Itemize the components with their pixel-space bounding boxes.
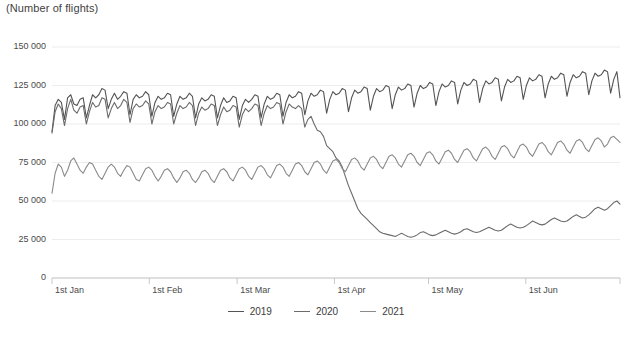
x-axis-tick-label: 1st Feb (152, 285, 182, 295)
y-axis-tick-label: 150 000 (13, 41, 46, 51)
legend-label: 2019 (250, 306, 272, 317)
x-axis-tick-label: 1st Jan (55, 285, 84, 295)
legend-label: 2021 (382, 306, 404, 317)
x-axis-tick-label: 1st Jun (529, 285, 558, 295)
y-axis-tick-label: 25 000 (18, 234, 46, 244)
y-axis-tick-label: 50 000 (18, 195, 46, 205)
legend-swatch-icon (294, 311, 310, 312)
y-axis-tick-label: 125 000 (13, 80, 46, 90)
y-axis-tick-label: 75 000 (18, 157, 46, 167)
series-line-2020 (52, 98, 620, 237)
legend-swatch-icon (360, 311, 376, 312)
x-axis-tick-label: 1st May (432, 285, 464, 295)
gridlines (52, 47, 620, 278)
legend-label: 2020 (316, 306, 338, 317)
series-lines (52, 70, 620, 237)
series-line-2019 (52, 70, 620, 132)
legend-item-2021[interactable]: 2021 (360, 306, 404, 317)
legend-swatch-icon (228, 311, 244, 312)
series-line-2021 (52, 136, 620, 193)
x-axis-tick-label: 1st Mar (240, 285, 270, 295)
flights-line-chart: (Number of flights) 025 00050 00075 0001… (0, 0, 632, 338)
axis-lines (52, 278, 620, 284)
chart-legend: 201920202021 (0, 306, 632, 317)
legend-item-2019[interactable]: 2019 (228, 306, 272, 317)
y-axis-tick-label: 100 000 (13, 118, 46, 128)
y-axis-tick-label: 0 (41, 272, 46, 282)
x-axis-tick-label: 1st Apr (337, 285, 365, 295)
legend-item-2020[interactable]: 2020 (294, 306, 338, 317)
